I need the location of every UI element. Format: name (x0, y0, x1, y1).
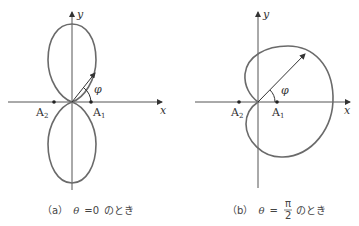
caption-b-frac-num: π (285, 198, 291, 209)
a1-label-a: A1 (92, 106, 105, 120)
y-label-b: y (262, 8, 270, 21)
angle-arc-b (270, 90, 275, 102)
caption-b-frac-den: 2 (285, 210, 291, 221)
caption-b: （b） θ = (227, 199, 278, 218)
y-label-a: y (76, 8, 84, 21)
a1-label-b: A1 (271, 106, 284, 120)
point-a1-b (275, 100, 279, 104)
angle-arc-a (84, 88, 91, 102)
vector-arrow-a (72, 73, 95, 102)
point-a1-a (89, 100, 93, 104)
point-a2-b (237, 100, 241, 104)
phi-label-a: φ (94, 83, 102, 96)
caption-b-suffix: のとき (296, 205, 326, 216)
caption-a: （a） θ =0 のとき (42, 199, 134, 218)
phi-label-b: φ (281, 84, 289, 97)
figure-a: x y φ A2 A1 （a） θ =0 のとき (8, 8, 167, 218)
figure-b: x y φ A2 A1 （b） θ = π 2 のとき (195, 8, 351, 221)
a2-label-a: A2 (35, 106, 48, 120)
x-label-a: x (160, 104, 167, 117)
point-a2-a (52, 100, 56, 104)
a2-label-b: A2 (230, 106, 243, 120)
x-label-b: x (344, 104, 351, 117)
diagram-canvas: x y φ A2 A1 （a） θ =0 のとき x y φ A2 A1 （b (0, 0, 359, 226)
